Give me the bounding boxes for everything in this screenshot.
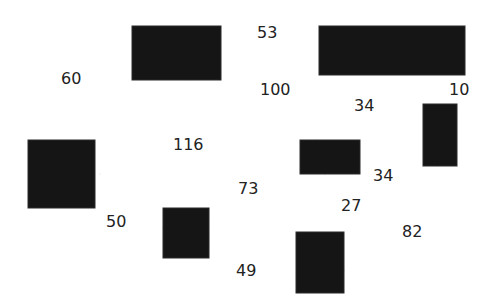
edge-label-n6-n7: 49 [236,263,256,279]
edge-label-n3-n6: 50 [106,214,126,230]
edge-label-n1-n3: 60 [61,71,81,87]
edges [50,48,439,273]
edge-label-n1-n2: 53 [257,25,277,41]
edge-label-n4-n5: 34 [373,168,393,184]
edge-label-n6-n4: 73 [238,181,258,197]
edge-label-n2-n5: 10 [449,82,469,98]
node-n5[interactable] [423,104,457,166]
node-n4[interactable] [300,140,360,174]
node-n2[interactable] [319,26,465,75]
node-n1[interactable] [132,26,221,80]
edge-label-n1-n4: 100 [260,82,291,98]
edge-n6-n4 [209,175,325,236]
edge-n1-n4 [188,80,315,140]
edge-label-n2-n4: 34 [354,98,374,114]
edge-label-n5-n7: 82 [402,224,422,240]
node-n3[interactable] [28,140,95,208]
edge-label-n4-n7: 27 [341,198,361,214]
edge-label-n3-n4: 116 [173,137,204,153]
node-n6[interactable] [163,208,209,258]
node-n7[interactable] [296,232,344,293]
